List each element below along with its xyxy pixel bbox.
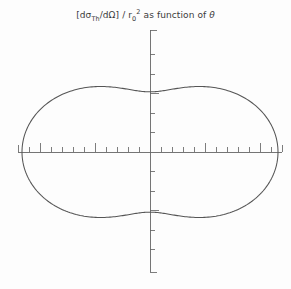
vertical-axis-group — [150, 30, 159, 272]
vertical-axis-ticks — [150, 30, 159, 272]
polar-plot-canvas — [0, 0, 291, 289]
polar-plot-figure: [dσTh/dΩ] / r02 as function of θ — [0, 0, 291, 289]
